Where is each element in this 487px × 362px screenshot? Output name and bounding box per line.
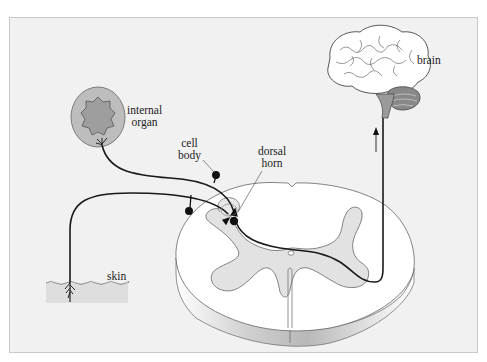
internal-organ	[71, 87, 125, 147]
pain-pathway-diagram	[0, 0, 487, 362]
label-organ: organ	[127, 116, 162, 128]
label-internal-organ: internal organ	[127, 104, 162, 128]
label-internal: internal	[127, 104, 162, 116]
label-dorsal: dorsal	[258, 145, 286, 157]
up-arrow-icon	[373, 127, 379, 152]
skin	[46, 282, 129, 304]
cell-body-leader	[203, 160, 214, 172]
label-horn: horn	[258, 157, 286, 169]
label-brain: brain	[417, 54, 441, 66]
spinal-cord	[176, 183, 414, 347]
label-cell-body: cell body	[178, 137, 201, 161]
label-dorsal-horn: dorsal horn	[258, 145, 286, 169]
label-skin: skin	[107, 270, 126, 282]
brain	[328, 25, 431, 118]
label-cell: cell	[178, 137, 201, 149]
label-body: body	[178, 149, 201, 161]
